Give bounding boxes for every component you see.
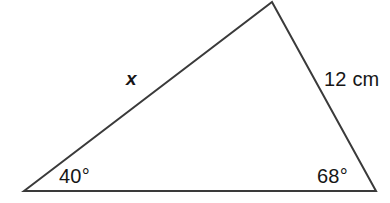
angle-label-left: 40° <box>59 166 90 186</box>
side-label-x: x <box>126 69 137 88</box>
triangle-outline <box>24 2 376 191</box>
angle-label-right: 68° <box>317 166 348 186</box>
triangle-figure: x 12 cm 40° 68° <box>0 0 390 203</box>
side-label-12-cm: 12 cm <box>324 69 379 89</box>
